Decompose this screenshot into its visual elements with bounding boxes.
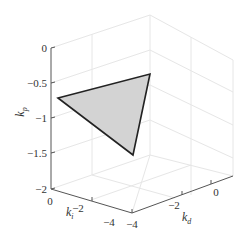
kd-axis-label: kd bbox=[182, 210, 192, 226]
ki-tick-labels: 0 −2 −4 bbox=[47, 195, 115, 228]
svg-text:−2: −2 bbox=[35, 183, 47, 195]
kd-tick-labels: −4 −2 0 bbox=[126, 186, 219, 230]
svg-text:−2: −2 bbox=[168, 199, 180, 211]
svg-text:kp: kp bbox=[13, 107, 29, 116]
svg-text:−4: −4 bbox=[126, 218, 138, 230]
svg-text:0: 0 bbox=[213, 186, 219, 198]
svg-text:−1.5: −1.5 bbox=[27, 147, 47, 159]
svg-text:−1: −1 bbox=[35, 112, 47, 124]
axes bbox=[51, 47, 233, 213]
svg-text:−0.5: −0.5 bbox=[27, 77, 47, 89]
kp-tick-labels: 0 −0.5 −1 −1.5 −2 bbox=[27, 42, 47, 195]
svg-text:0: 0 bbox=[47, 195, 53, 207]
svg-text:−4: −4 bbox=[103, 216, 115, 228]
svg-text:0: 0 bbox=[42, 42, 48, 54]
stability-triangle bbox=[58, 74, 150, 155]
svg-text:−2: −2 bbox=[72, 202, 84, 214]
3d-plot: 0 −0.5 −1 −1.5 −2 0 −2 −4 −4 −2 0 kp ki … bbox=[0, 0, 249, 237]
kp-axis-label: kp bbox=[13, 107, 29, 116]
svg-text:kd: kd bbox=[182, 210, 192, 226]
